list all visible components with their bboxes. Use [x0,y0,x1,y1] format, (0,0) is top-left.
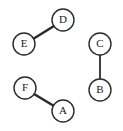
node-label-b: B [96,83,103,95]
edge-f-a [34,94,54,106]
node-label-d: D [59,13,67,25]
node-a[interactable]: A [52,100,74,122]
node-group: D E C B F A [13,9,111,122]
node-c[interactable]: C [89,33,111,55]
node-label-f: F [22,81,28,93]
edge-e-d [33,26,54,39]
node-e[interactable]: E [13,33,35,55]
node-b[interactable]: B [89,79,111,101]
node-f[interactable]: F [14,77,36,99]
node-d[interactable]: D [52,9,74,31]
node-label-e: E [21,37,28,49]
node-label-c: C [96,37,103,49]
graph-canvas: D E C B F A [0,0,123,131]
node-label-a: A [59,104,67,116]
graph-diagram: D E C B F A [0,0,123,131]
